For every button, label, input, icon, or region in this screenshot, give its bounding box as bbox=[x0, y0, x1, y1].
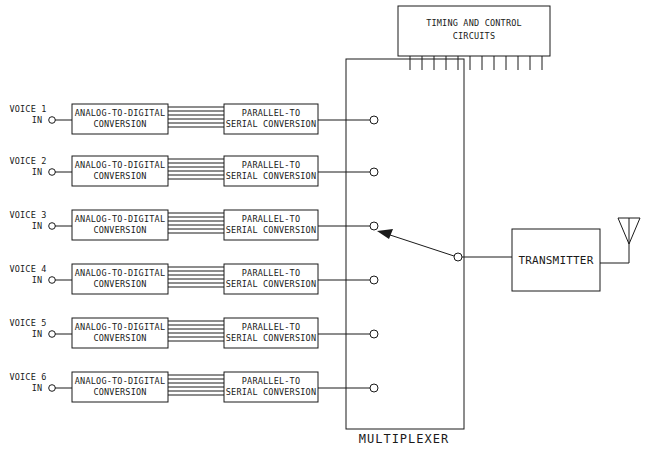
in-label: IN bbox=[32, 115, 43, 125]
channel-row-1: VOICE 1INANALOG-TO-DIGITALCONVERSIONPARA… bbox=[9, 104, 378, 134]
in-label: IN bbox=[32, 383, 43, 393]
adc-label-1: ANALOG-TO-DIGITAL bbox=[75, 376, 165, 386]
adc-label-1: ANALOG-TO-DIGITAL bbox=[75, 268, 165, 278]
channel-row-6: VOICE 6INANALOG-TO-DIGITALCONVERSIONPARA… bbox=[9, 372, 378, 402]
ps-label-1: PARALLEL-TO bbox=[242, 108, 301, 118]
voice-label: VOICE 2 bbox=[9, 156, 46, 166]
adc-label-2: CONVERSION bbox=[93, 333, 146, 343]
voice-label: VOICE 4 bbox=[9, 264, 46, 274]
input-terminal-icon bbox=[49, 223, 56, 230]
voice-label: VOICE 3 bbox=[9, 210, 46, 220]
ps-label-1: PARALLEL-TO bbox=[242, 268, 301, 278]
mux-contact-icon bbox=[370, 116, 378, 124]
mux-contact-icon bbox=[370, 330, 378, 338]
commutator-switch bbox=[377, 229, 512, 261]
in-label: IN bbox=[32, 275, 43, 285]
ps-label-2: SERIAL CONVERSION bbox=[226, 119, 316, 129]
adc-label-2: CONVERSION bbox=[93, 171, 146, 181]
input-terminal-icon bbox=[49, 331, 56, 338]
mux-contact-icon bbox=[370, 222, 378, 230]
channel-row-4: VOICE 4INANALOG-TO-DIGITALCONVERSIONPARA… bbox=[9, 264, 378, 294]
adc-label-1: ANALOG-TO-DIGITAL bbox=[75, 160, 165, 170]
input-terminal-icon bbox=[49, 385, 56, 392]
channel-row-3: VOICE 3INANALOG-TO-DIGITALCONVERSIONPARA… bbox=[9, 210, 378, 240]
input-terminal-icon bbox=[49, 117, 56, 124]
voice-label: VOICE 5 bbox=[9, 318, 46, 328]
voice-label: VOICE 6 bbox=[9, 372, 46, 382]
input-terminal-icon bbox=[49, 169, 56, 176]
ps-label-2: SERIAL CONVERSION bbox=[226, 225, 316, 235]
adc-label-1: ANALOG-TO-DIGITAL bbox=[75, 322, 165, 332]
ps-label-2: SERIAL CONVERSION bbox=[226, 333, 316, 343]
adc-label-2: CONVERSION bbox=[93, 279, 146, 289]
ps-label-1: PARALLEL-TO bbox=[242, 322, 301, 332]
tdm-block-diagram: TIMING AND CONTROL CIRCUITS MULTIPLEXER … bbox=[0, 0, 654, 456]
voice-label: VOICE 1 bbox=[9, 104, 46, 114]
mux-contact-icon bbox=[370, 168, 378, 176]
adc-label-1: ANALOG-TO-DIGITAL bbox=[75, 108, 165, 118]
ps-label-2: SERIAL CONVERSION bbox=[226, 279, 316, 289]
timing-label-2: CIRCUITS bbox=[453, 31, 496, 41]
input-terminal-icon bbox=[49, 277, 56, 284]
ps-label-2: SERIAL CONVERSION bbox=[226, 171, 316, 181]
adc-label-1: ANALOG-TO-DIGITAL bbox=[75, 214, 165, 224]
transmitter-label: TRANSMITTER bbox=[518, 254, 593, 267]
timing-label-1: TIMING AND CONTROL bbox=[426, 18, 522, 28]
channel-row-2: VOICE 2INANALOG-TO-DIGITALCONVERSIONPARA… bbox=[9, 156, 378, 186]
ps-label-2: SERIAL CONVERSION bbox=[226, 387, 316, 397]
ps-label-1: PARALLEL-TO bbox=[242, 160, 301, 170]
adc-label-2: CONVERSION bbox=[93, 387, 146, 397]
adc-label-2: CONVERSION bbox=[93, 225, 146, 235]
in-label: IN bbox=[32, 167, 43, 177]
ps-label-1: PARALLEL-TO bbox=[242, 376, 301, 386]
ps-label-1: PARALLEL-TO bbox=[242, 214, 301, 224]
multiplexer-label: MULTIPLEXER bbox=[359, 432, 449, 446]
transmitter-block: TRANSMITTER bbox=[512, 218, 640, 291]
mux-contact-icon bbox=[370, 276, 378, 284]
in-label: IN bbox=[32, 221, 43, 231]
timing-control-block: TIMING AND CONTROL CIRCUITS bbox=[398, 6, 550, 70]
adc-label-2: CONVERSION bbox=[93, 119, 146, 129]
arrowhead-icon bbox=[377, 229, 393, 239]
in-label: IN bbox=[32, 329, 43, 339]
channel-row-5: VOICE 5INANALOG-TO-DIGITALCONVERSIONPARA… bbox=[9, 318, 378, 348]
mux-contact-icon bbox=[370, 384, 378, 392]
